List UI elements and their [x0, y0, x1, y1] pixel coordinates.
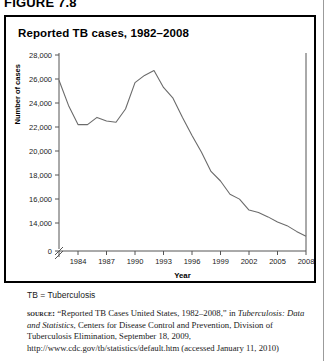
x-axis-tick-label: 2005 [269, 257, 286, 266]
source-text-part1: “Reported TB Cases United States, 1982–2… [57, 308, 235, 318]
y-axis-tick-label: 14,000 [29, 219, 52, 228]
chart-panel: Reported TB cases, 1982–2008 Number of c… [4, 15, 316, 283]
abbreviation-note: TB = Tuberculosis [27, 290, 95, 300]
source-note: SOURCE: “Reported TB Cases United States… [27, 308, 319, 354]
y-axis-tick-label: 20,000 [29, 147, 52, 156]
plot-area: 014,00016,00018,00020,00022,00024,00026,… [6, 47, 318, 283]
y-axis-tick-label: 16,000 [29, 195, 52, 204]
x-axis-tick-label: 1996 [184, 257, 201, 266]
data-series-line [59, 71, 306, 237]
chart-title: Reported TB cases, 1982–2008 [18, 27, 189, 39]
y-axis-tick-label: 22,000 [29, 123, 52, 132]
x-axis-tick-label: 2002 [241, 257, 258, 266]
source-kicker: SOURCE: [27, 308, 55, 318]
y-axis-tick-label: 24,000 [29, 99, 52, 108]
y-axis-tick-label: 26,000 [29, 75, 52, 84]
line-chart-svg: 014,00016,00018,00020,00022,00024,00026,… [6, 47, 318, 283]
figure-container: FIGURE 7.8 Reported TB cases, 1982–2008 … [0, 0, 324, 361]
x-axis-tick-label: 2008 [298, 257, 315, 266]
x-axis-tick-label: 1999 [212, 257, 229, 266]
x-axis-tick-label: 1987 [98, 257, 115, 266]
y-axis-tick-label: 18,000 [29, 171, 52, 180]
x-axis-title: Year [174, 271, 190, 280]
figure-number-label: FIGURE 7.8 [4, 0, 77, 10]
y-axis-tick-label: 28,000 [29, 51, 52, 60]
y-axis-tick-label: 0 [48, 247, 52, 256]
x-axis-tick-label: 1990 [127, 257, 144, 266]
x-axis-tick-label: 1993 [155, 257, 172, 266]
x-axis-tick-label: 1984 [70, 257, 87, 266]
